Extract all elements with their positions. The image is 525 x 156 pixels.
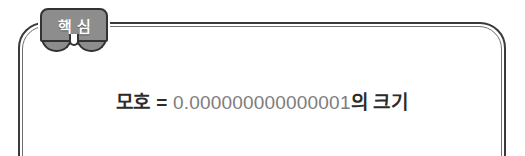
core-point-badge: 핵 심 bbox=[40, 8, 108, 54]
badge-label: 핵 심 bbox=[40, 8, 108, 42]
body-text-suffix: 의 크기 bbox=[351, 92, 408, 113]
body-text-number: 0.000000000000001 bbox=[173, 92, 351, 113]
callout-body: 모호 = 0.000000000000001의 크기 bbox=[18, 60, 506, 140]
body-text-prefix: 모호 = bbox=[116, 92, 173, 113]
callout-body-line: 모호 = 0.000000000000001의 크기 bbox=[116, 87, 408, 114]
badge-label-char-1: 핵 bbox=[58, 15, 72, 36]
callout-page: 핵 심 모호 = 0.000000000000001의 크기 bbox=[0, 0, 525, 156]
badge-label-char-2: 심 bbox=[77, 15, 91, 36]
